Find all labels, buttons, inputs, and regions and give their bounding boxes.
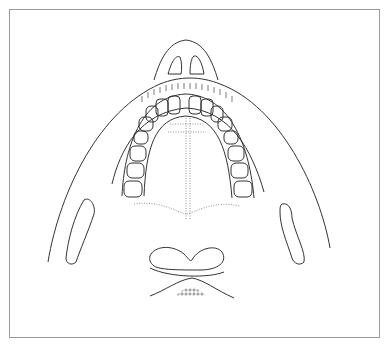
dental-arch [122,94,254,198]
gum-outline [112,108,264,192]
anatomy-illustration [0,0,386,347]
cervical-vertebra-section [150,278,234,298]
vertebra-dots [176,288,206,296]
hyoid-hatched [150,247,224,276]
chin [154,40,218,80]
left-bone-section [66,199,94,264]
palatal-midline-dotted [134,118,240,220]
right-bone-section [280,204,304,264]
